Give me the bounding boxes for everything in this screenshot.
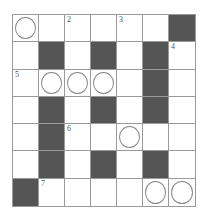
grid-cell[interactable]: 6 (65, 124, 91, 151)
grid-cell[interactable] (91, 15, 117, 42)
circle-marker-icon (15, 17, 36, 39)
grid-cell[interactable]: 7 (39, 179, 65, 206)
black-cell (39, 124, 65, 151)
grid-cell[interactable]: 4 (169, 42, 195, 69)
grid-cell[interactable] (39, 15, 65, 42)
grid-cell[interactable] (143, 179, 169, 206)
grid-cell[interactable] (169, 97, 195, 124)
circle-marker-icon (67, 72, 88, 94)
grid-cell[interactable] (91, 179, 117, 206)
grid-cell[interactable] (117, 179, 143, 206)
grid-cell[interactable] (91, 70, 117, 97)
grid-cell[interactable] (117, 124, 143, 151)
grid-cell[interactable] (117, 42, 143, 69)
grid-cell[interactable] (65, 42, 91, 69)
grid-cell[interactable] (169, 151, 195, 178)
grid-cell[interactable] (65, 151, 91, 178)
clue-number: 3 (119, 15, 123, 24)
grid-cell[interactable] (117, 97, 143, 124)
clue-number: 5 (15, 70, 19, 79)
black-cell (143, 42, 169, 69)
black-cell (39, 42, 65, 69)
grid-cell[interactable] (117, 151, 143, 178)
black-cell (91, 151, 117, 178)
clue-number: 4 (171, 42, 175, 51)
grid-cell[interactable] (91, 124, 117, 151)
black-cell (13, 179, 39, 206)
grid-cell[interactable] (169, 124, 195, 151)
grid-cell[interactable] (143, 124, 169, 151)
grid-cell[interactable] (13, 42, 39, 69)
grid-cell[interactable]: 2 (65, 15, 91, 42)
grid-cell[interactable]: 5 (13, 70, 39, 97)
circle-marker-icon (145, 181, 166, 204)
grid-cell[interactable] (65, 97, 91, 124)
grid-cell[interactable] (65, 179, 91, 206)
circle-marker-icon (93, 72, 114, 94)
grid-cell[interactable] (169, 179, 195, 206)
clue-number: 2 (67, 15, 71, 24)
crossword-grid: 234567 (12, 14, 196, 207)
black-cell (39, 97, 65, 124)
black-cell (143, 151, 169, 178)
grid-cell[interactable] (13, 97, 39, 124)
grid-cell[interactable]: 3 (117, 15, 143, 42)
black-cell (91, 42, 117, 69)
clue-number: 6 (67, 124, 71, 133)
clue-number: 7 (41, 179, 45, 188)
puzzle-header (0, 0, 208, 10)
black-cell (143, 97, 169, 124)
grid-cell[interactable] (13, 151, 39, 178)
grid-cell[interactable] (143, 15, 169, 42)
grid-cell[interactable] (65, 70, 91, 97)
grid-cell[interactable] (39, 70, 65, 97)
grid-cell[interactable] (169, 70, 195, 97)
black-cell (169, 15, 195, 42)
circle-marker-icon (119, 126, 140, 148)
black-cell (39, 151, 65, 178)
black-cell (91, 97, 117, 124)
grid-cell[interactable] (13, 124, 39, 151)
grid-cell[interactable] (117, 70, 143, 97)
black-cell (143, 70, 169, 97)
grid-cell[interactable] (13, 15, 39, 42)
circle-marker-icon (41, 72, 62, 94)
circle-marker-icon (171, 181, 193, 204)
